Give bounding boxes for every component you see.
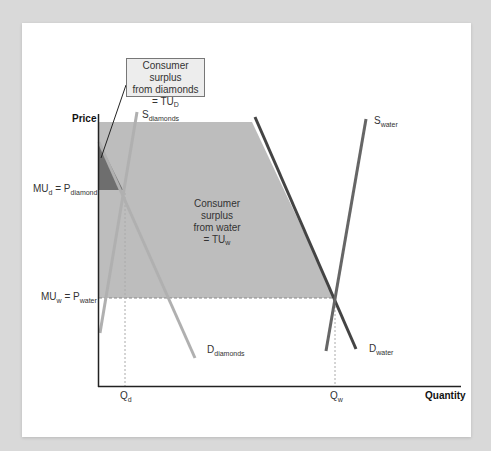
water-surplus-label: Consumer surplus from water = TUw: [180, 198, 254, 249]
diamond-surplus-callout: Consumer surplus from diamonds = TUD: [126, 58, 205, 97]
mu-text: MU: [41, 291, 57, 302]
p-sub: diamond: [71, 189, 98, 196]
s-water-label: Swater: [374, 116, 398, 128]
d-water-label: Dwater: [369, 344, 393, 356]
q-text: Q: [330, 390, 338, 401]
q-sub: d: [128, 396, 132, 403]
water-surplus-line: from water: [180, 222, 254, 234]
tu-sub: D: [174, 101, 179, 108]
p-sub: water: [80, 297, 97, 304]
water-surplus-line: surplus: [180, 210, 254, 222]
d-diamonds-label: Ddiamonds: [207, 345, 245, 357]
tu-sub: w: [225, 239, 230, 246]
water-surplus-line: Consumer: [180, 198, 254, 210]
tu-text: = TU: [204, 234, 226, 245]
callout-line: = TUD: [127, 96, 204, 111]
s-diamonds-label: Sdiamonds: [142, 110, 179, 122]
q-text: Q: [120, 390, 128, 401]
water-price-label: MUw = Pwater: [41, 292, 97, 304]
curve-sub: diamonds: [149, 115, 179, 122]
curve-sub: water: [376, 349, 393, 356]
qw-label: Qw: [330, 391, 343, 403]
y-axis-title: Price: [72, 113, 96, 124]
callout-line: from diamonds: [127, 84, 204, 96]
curve-sub: water: [381, 121, 398, 128]
diamond-price-label: MUd = Pdiamond: [33, 184, 97, 196]
q-sub: w: [338, 396, 343, 403]
tu-text: = TU: [152, 96, 174, 107]
curve-sub: diamonds: [214, 350, 244, 357]
callout-line: Consumer surplus: [127, 60, 204, 84]
x-axis-title: Quantity: [425, 390, 466, 401]
water-surplus-line: = TUw: [180, 234, 254, 249]
mu-text: MU: [33, 183, 49, 194]
p-text: = P: [52, 183, 70, 194]
curve-letter: S: [374, 115, 381, 126]
qd-label: Qd: [120, 391, 132, 403]
s-water-curve: [326, 119, 366, 351]
p-text: = P: [62, 291, 80, 302]
